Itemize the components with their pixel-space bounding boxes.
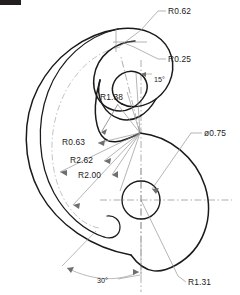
leader-r131 <box>178 276 186 282</box>
leader-r131-tail <box>141 200 178 276</box>
leader-d075-tail <box>152 133 191 189</box>
leader-r262-arrow <box>104 158 111 164</box>
callout-angle-15: 15° <box>154 75 165 84</box>
drawing-sheet: R0.62 R0.25 15° R1.38 R0.63 ø0.75 R2.62 … <box>0 0 240 295</box>
callout-r025: R0.25 <box>168 54 191 64</box>
crescent-end-cap <box>104 216 120 238</box>
leader-radial-extra-1 <box>120 133 140 191</box>
leader-arm-arrow-1 <box>60 170 67 176</box>
callout-r138: R1.38 <box>100 92 123 102</box>
callout-d075: ø0.75 <box>204 128 226 138</box>
callout-angle-30: 30° <box>97 276 108 285</box>
angle-30-arrow-right <box>133 269 139 275</box>
part-outline <box>26 28 208 271</box>
callout-r200: R2.00 <box>78 170 101 180</box>
technical-drawing-canvas: R0.62 R0.25 15° R1.38 R0.63 ø0.75 R2.62 … <box>0 0 240 295</box>
callout-r063: R0.63 <box>62 137 85 147</box>
leader-r200-arrow <box>112 171 118 178</box>
dimension-labels: R0.62 R0.25 15° R1.38 R0.63 ø0.75 R2.62 … <box>62 6 226 287</box>
leader-r025 <box>134 47 166 59</box>
callout-r131: R1.31 <box>188 277 211 287</box>
angle-30-ext-left <box>62 231 96 266</box>
leader-r025-tail <box>124 43 134 47</box>
lower-lobe-profile <box>131 133 208 271</box>
leader-r062-tail <box>120 30 141 46</box>
leader-radial-extra-2 <box>127 92 140 133</box>
leader-r138-arrow <box>101 129 107 135</box>
leader-r063-arrow <box>98 140 105 146</box>
callout-r262: R2.62 <box>70 155 93 165</box>
angle-30-arrow-left <box>67 267 74 273</box>
callout-r062: R0.62 <box>168 6 191 16</box>
leader-r062 <box>141 11 166 30</box>
